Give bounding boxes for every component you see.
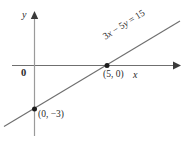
x-intercept-point-marker	[105, 63, 110, 68]
origin-label: 0	[21, 68, 26, 79]
y-intercept-point-marker	[32, 107, 37, 112]
x-intercept-label: (5, 0)	[103, 70, 124, 80]
x-axis-label: x	[133, 70, 137, 80]
graph-figure: y x 0 (5, 0) (0, −3) 3x − 5y = 15	[0, 0, 191, 145]
y-intercept-label: (0, −3)	[38, 110, 64, 120]
equation-line	[4, 21, 180, 127]
coordinate-plane-svg	[0, 0, 191, 145]
y-axis-arrowhead-icon	[31, 11, 38, 19]
x-axis-arrowhead-icon	[173, 62, 181, 70]
y-axis-label: y	[22, 10, 26, 20]
x-axis	[12, 62, 181, 70]
